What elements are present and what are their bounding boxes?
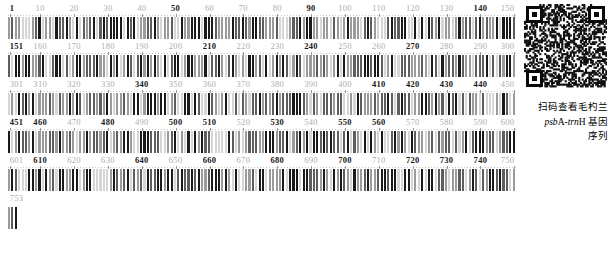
barcode-bar [448, 169, 450, 191]
ruler-tick-label: 460 [33, 118, 47, 127]
barcode-bar [299, 93, 301, 115]
barcode-bar [337, 169, 339, 191]
barcode-bar [360, 55, 362, 77]
barcode-bar [340, 131, 342, 153]
ruler-tick-label: 220 [237, 42, 251, 51]
barcode-bar [441, 17, 443, 39]
barcode-bar [381, 55, 383, 77]
barcode-bar [455, 93, 457, 115]
barcode-bar [198, 131, 200, 153]
barcode-bar [452, 131, 454, 153]
barcode-bar [438, 93, 440, 115]
barcode-bar [86, 55, 88, 77]
barcode-bar [221, 131, 223, 153]
barcode-bar [387, 93, 389, 115]
barcode-bar [357, 131, 359, 153]
barcode-bar [79, 131, 81, 153]
barcode-bar [143, 131, 145, 153]
barcode-bar [127, 131, 129, 153]
barcode-bar [248, 93, 250, 115]
barcode-bar [276, 93, 278, 115]
barcode-bar [265, 93, 267, 115]
barcode-bar [269, 131, 271, 153]
barcode-bar [49, 93, 51, 115]
barcode-bar [513, 169, 515, 191]
barcode-bar [370, 169, 372, 191]
qr-code[interactable] [524, 4, 607, 89]
barcode-bar [130, 55, 132, 77]
barcode-bar [438, 55, 440, 77]
barcode-bar [174, 131, 176, 153]
barcode-bar [401, 131, 403, 153]
barcode-bar [8, 131, 10, 153]
barcode-bar [86, 93, 88, 115]
barcode-bar [340, 55, 342, 77]
barcode-bar [458, 55, 460, 77]
barcode-bar [160, 169, 162, 191]
ruler-tick-label: 560 [372, 118, 386, 127]
barcode-bar [116, 169, 118, 191]
barcode-bar [167, 93, 169, 115]
barcode-bar [62, 17, 64, 39]
barcode-bar [411, 17, 413, 39]
barcode-bar [282, 17, 284, 39]
barcode-bar [106, 131, 108, 153]
barcode-bar [316, 131, 318, 153]
barcode-bar [99, 131, 101, 153]
barcode-bar [106, 55, 108, 77]
barcode-bar [360, 169, 362, 191]
barcode-bar [353, 93, 355, 115]
barcode-bar [140, 131, 142, 153]
barcode-bar [475, 17, 477, 39]
barcode-bar [255, 131, 257, 153]
barcode-bar [343, 55, 345, 77]
ruler-tick-label: 390 [304, 80, 318, 89]
barcode-bar [286, 55, 288, 77]
barcode-bar [303, 93, 305, 115]
barcode-bar [52, 55, 54, 77]
barcode-bar [435, 55, 437, 77]
barcode-bar [113, 93, 115, 115]
barcode-bar [235, 169, 237, 191]
barcode-bar [181, 169, 183, 191]
barcode-bar [411, 131, 413, 153]
barcode-bar [194, 93, 196, 115]
barcode-ruler: 4514604704804905005105205305405505605705… [8, 118, 516, 131]
ruler-tick-label: 1 [10, 4, 15, 13]
barcode-bar [469, 17, 471, 39]
barcode-bar [428, 93, 430, 115]
barcode-bar [323, 93, 325, 115]
barcode-bar [93, 17, 95, 39]
barcode-bar [414, 17, 416, 39]
barcode-bar [486, 169, 488, 191]
barcode-bar [299, 169, 301, 191]
barcode-row: 3013103203303403503603703803904004104204… [8, 80, 516, 115]
barcode-bar [289, 169, 291, 191]
barcode-bar [486, 55, 488, 77]
barcode-bar [18, 169, 20, 191]
barcode-bar [340, 17, 342, 39]
barcode-bar [235, 55, 237, 77]
barcode-bar [465, 93, 467, 115]
barcode-bar [306, 17, 308, 39]
barcode-bar [201, 131, 203, 153]
barcode-bar [292, 169, 294, 191]
barcode-bar [130, 17, 132, 39]
barcode-bar [282, 169, 284, 191]
barcode-bar [435, 169, 437, 191]
barcode-bar [397, 169, 399, 191]
barcode-bar [191, 131, 193, 153]
barcode-bar [79, 169, 81, 191]
barcode-bar [167, 131, 169, 153]
barcode-bar [469, 55, 471, 77]
barcode-bar [187, 17, 189, 39]
ruler-tick-label: 230 [270, 42, 284, 51]
barcode-bar [143, 17, 145, 39]
barcode-bar [276, 169, 278, 191]
barcode-bar [52, 17, 54, 39]
barcode-bar [469, 93, 471, 115]
barcode-bar [255, 17, 257, 39]
barcode-bar [401, 93, 403, 115]
barcode-bar [330, 93, 332, 115]
ruler-tick-label: 620 [67, 156, 81, 165]
